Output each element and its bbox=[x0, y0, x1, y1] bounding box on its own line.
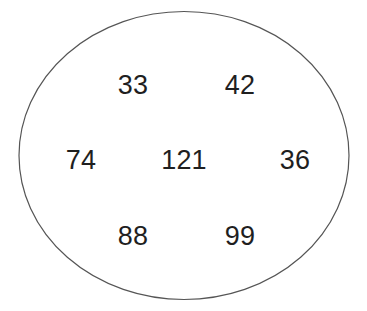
set-element-88: 88 bbox=[118, 223, 148, 250]
set-element-121: 121 bbox=[161, 147, 207, 174]
set-element-36: 36 bbox=[280, 147, 310, 174]
set-element-33: 33 bbox=[118, 72, 148, 99]
set-element-74: 74 bbox=[66, 147, 96, 174]
set-element-42: 42 bbox=[225, 72, 255, 99]
set-diagram: 33 42 74 121 36 88 99 bbox=[0, 0, 367, 311]
set-element-99: 99 bbox=[225, 223, 255, 250]
